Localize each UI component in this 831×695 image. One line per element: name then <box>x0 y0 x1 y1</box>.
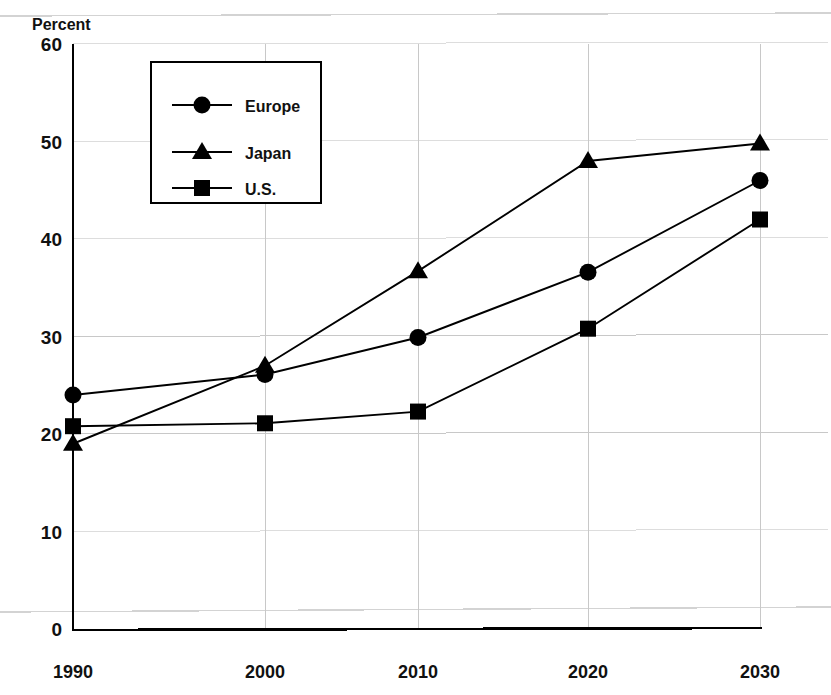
y-tick-label-30: 30 <box>41 327 62 348</box>
legend-label: Japan <box>245 145 291 162</box>
datapoint-europe-2010 <box>410 329 427 346</box>
line-chart-figure: 0102030405060 19902000201020202030 Perce… <box>0 0 831 695</box>
y-tick-label-0: 0 <box>51 619 62 640</box>
datapoint-us-1990 <box>65 418 81 434</box>
datapoint-europe-2030 <box>752 172 769 189</box>
chart-background <box>0 0 831 695</box>
datapoint-europe-1990 <box>65 387 82 404</box>
datapoint-us-2000 <box>257 415 273 431</box>
y-tick-label-20: 20 <box>41 424 62 445</box>
legend-box <box>151 62 321 203</box>
y-axis-title: Percent <box>32 16 91 33</box>
legend-label: U.S. <box>245 181 276 198</box>
legend-marker-circle <box>194 97 211 114</box>
x-tick-label-2000: 2000 <box>245 662 285 682</box>
legend-marker-square <box>194 180 210 196</box>
x-tick-label-2020: 2020 <box>568 662 608 682</box>
y-tick-label-60: 60 <box>41 34 62 55</box>
datapoint-us-2010 <box>410 404 426 420</box>
y-tick-label-40: 40 <box>41 229 62 250</box>
x-tick-label-2030: 2030 <box>740 662 780 682</box>
datapoint-us-2020 <box>580 321 596 337</box>
datapoint-us-2030 <box>752 212 768 228</box>
x-tick-label-1990: 1990 <box>53 662 93 682</box>
y-tick-label-10: 10 <box>41 522 62 543</box>
x-tick-label-2010: 2010 <box>398 662 438 682</box>
datapoint-europe-2020 <box>580 264 597 281</box>
legend-label: Europe <box>245 98 300 115</box>
chart-legend: EuropeJapanU.S. <box>151 62 321 203</box>
y-tick-label-50: 50 <box>41 132 62 153</box>
